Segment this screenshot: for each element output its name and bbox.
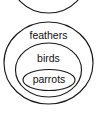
nested-sets-diagram: feathers birds parrots <box>0 0 97 116</box>
set-label-birds: birds <box>37 52 60 64</box>
partial-circle-above <box>9 0 89 13</box>
euler-diagram-canvas: feathers birds parrots <box>0 0 97 116</box>
set-label-parrots: parrots <box>33 73 66 85</box>
set-label-feathers: feathers <box>30 29 68 41</box>
